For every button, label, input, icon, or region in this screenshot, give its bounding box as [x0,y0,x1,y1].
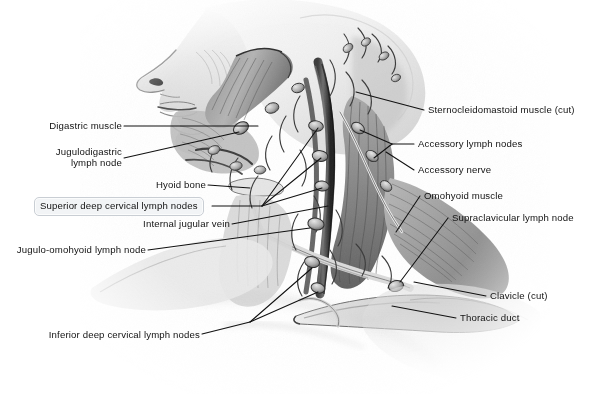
label-jugulodigastric-lymph-node-line2[interactable]: lymph node [28,157,122,169]
label-thoracic-duct[interactable]: Thoracic duct [460,312,520,324]
label-accessory-nerve[interactable]: Accessory nerve [418,164,491,176]
label-supraclavicular-lymph-node[interactable]: Supraclavicular lymph node [452,212,574,224]
label-clavicle-cut[interactable]: Clavicle (cut) [490,290,548,302]
label-digastric-muscle[interactable]: Digastric muscle [34,120,122,132]
label-sternocleidomastoid-muscle-cut[interactable]: Sternocleidomastoid muscle (cut) [428,104,575,116]
label-hyoid-bone[interactable]: Hyoid bone [136,179,206,191]
label-superior-deep-cervical-lymph-nodes[interactable]: Superior deep cervical lymph nodes [34,197,204,216]
label-internal-jugular-vein[interactable]: Internal jugular vein [114,218,230,230]
label-jugulo-omohyoid-lymph-node[interactable]: Jugulo-omohyoid lymph node [6,244,146,256]
label-jugulodigastric-lymph-node-line1[interactable]: Jugulodigastric [28,146,122,158]
label-omohyoid-muscle[interactable]: Omohyoid muscle [424,190,503,202]
label-inferior-deep-cervical-lymph-nodes[interactable]: Inferior deep cervical lymph nodes [34,329,200,341]
label-accessory-lymph-nodes[interactable]: Accessory lymph nodes [418,138,522,150]
